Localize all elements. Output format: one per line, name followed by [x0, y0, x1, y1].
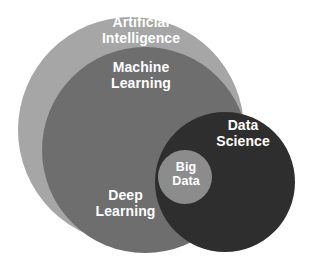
label-artificial-intelligence: Artificial Intelligence: [76, 15, 206, 46]
label-big-data: Big Data: [157, 160, 215, 188]
label-data-science: Data Science: [194, 118, 292, 149]
label-machine-learning: Machine Learning: [76, 60, 206, 91]
venn-diagram: Artificial Intelligence Machine Learning…: [0, 0, 314, 261]
label-deep-learning: Deep Learning: [73, 188, 178, 219]
